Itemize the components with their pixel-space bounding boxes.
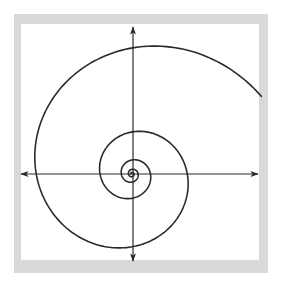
spiral-diagram [0,0,281,288]
logarithmic-spiral [35,46,262,248]
